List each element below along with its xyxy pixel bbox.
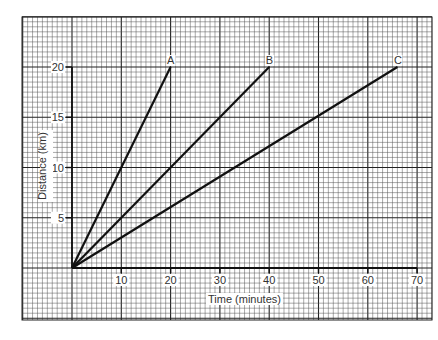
- series-label-A: A: [167, 54, 175, 66]
- series-label-C: C: [394, 54, 402, 66]
- x-tick-label: 10: [115, 274, 127, 286]
- x-tick-label: 60: [362, 274, 374, 286]
- x-tick-label: 20: [164, 274, 176, 286]
- y-tick-label: 15: [52, 111, 64, 123]
- y-tick-label: 20: [52, 61, 64, 73]
- tick-labels: 102030405060705101520: [51, 61, 425, 286]
- x-tick-label: 40: [263, 274, 275, 286]
- distance-time-graph: ABC 102030405060705101520 Time (minutes)…: [0, 0, 438, 340]
- x-axis-label: Time (minutes): [208, 293, 281, 305]
- y-axis-label: Distance (km): [36, 132, 48, 200]
- x-tick-label: 30: [214, 274, 226, 286]
- x-tick-label: 50: [312, 274, 324, 286]
- y-tick-label: 5: [58, 212, 64, 224]
- series-label-B: B: [266, 54, 273, 66]
- x-tick-label: 70: [411, 274, 423, 286]
- y-tick-label: 10: [52, 162, 64, 174]
